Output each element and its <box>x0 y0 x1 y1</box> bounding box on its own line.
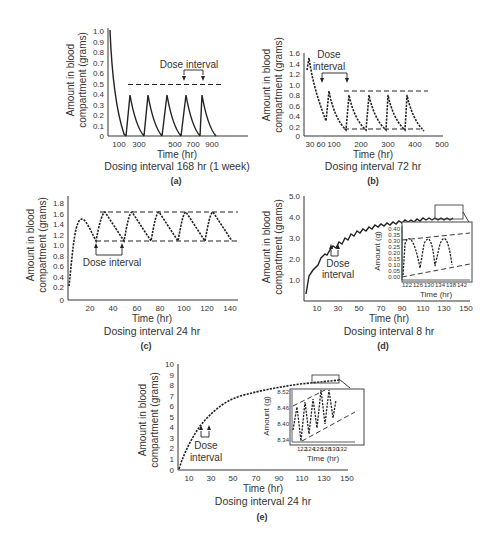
svg-text:0: 0 <box>60 296 65 305</box>
d-yticks: 5.0 4.0 3.0 2.0 1.0 <box>289 192 301 285</box>
svg-text:10: 10 <box>185 474 194 483</box>
svg-text:0: 0 <box>170 466 175 475</box>
svg-text:400: 400 <box>408 140 422 149</box>
d-inset-xticks: 122 126 130 134 138 142 <box>402 282 468 288</box>
svg-text:5.0: 5.0 <box>289 192 301 201</box>
b-ylabel-2: compartment (grams) <box>273 37 284 133</box>
b-xticks: 30 60 100 200 300 400 500 <box>306 140 450 149</box>
b-interval: interval <box>313 61 345 72</box>
svg-text:130: 130 <box>424 282 435 288</box>
svg-text:0.1: 0.1 <box>93 122 105 131</box>
svg-text:0.8: 0.8 <box>53 252 65 261</box>
b-dose: Dose <box>317 49 341 60</box>
svg-text:1.8: 1.8 <box>53 199 65 208</box>
c-panel-label: (c) <box>141 341 152 351</box>
c-yticks: 1.8 1.6 1.4 1.2 1.0 0.8 0.6 0.4 0.2 0 <box>53 199 65 305</box>
svg-text:8.34: 8.34 <box>277 437 289 443</box>
d-ylabel-1: Amount in blood <box>261 211 272 283</box>
svg-text:50: 50 <box>355 304 364 313</box>
svg-text:4: 4 <box>170 423 175 432</box>
svg-text:9: 9 <box>170 371 175 380</box>
b-yticks: 1.6 1.4 1.2 1.0 0.8 0.6 0.4 0.2 0 <box>289 49 301 141</box>
b-caption: Dosing interval 72 hr <box>325 160 422 172</box>
d-ylabel-2: compartment (grams) <box>273 199 284 295</box>
svg-text:1.4: 1.4 <box>289 60 301 69</box>
svg-text:150: 150 <box>340 474 354 483</box>
svg-text:0.8: 0.8 <box>289 91 301 100</box>
figure-canvas: Amount in blood compartment (grams) 1.0 … <box>0 0 498 538</box>
svg-text:700: 700 <box>186 140 200 149</box>
b-xlabel: Time (hr) <box>353 149 393 160</box>
c-curve <box>69 212 232 286</box>
panel-b: Amount in blood compartment (grams) 1.6 … <box>261 37 449 186</box>
d-zoom-box <box>435 205 463 219</box>
svg-text:0: 0 <box>296 132 301 141</box>
d-xlabel: Time (hr) <box>369 313 409 324</box>
e-inset-xlabel: Time (hr) <box>307 454 339 463</box>
d-interval: interval <box>322 269 354 280</box>
svg-text:900: 900 <box>205 140 219 149</box>
svg-text:120: 120 <box>200 304 214 313</box>
svg-text:70: 70 <box>252 474 261 483</box>
svg-text:8.52: 8.52 <box>277 389 289 395</box>
svg-text:1.0: 1.0 <box>93 27 105 36</box>
svg-text:50: 50 <box>229 474 238 483</box>
svg-text:5: 5 <box>170 413 175 422</box>
svg-text:500: 500 <box>168 140 182 149</box>
d-xticks: 10 30 50 70 90 110 130 150 <box>313 304 474 313</box>
svg-text:140: 140 <box>223 304 237 313</box>
svg-text:300: 300 <box>132 140 146 149</box>
svg-text:0.6: 0.6 <box>93 69 105 78</box>
b-bracket <box>322 73 347 78</box>
svg-text:1.2: 1.2 <box>289 70 301 79</box>
a-curve <box>110 30 216 136</box>
e-arrows <box>199 425 211 430</box>
d-dose: Dose <box>326 258 350 269</box>
svg-text:0.4: 0.4 <box>93 90 105 99</box>
svg-text:0.2: 0.2 <box>53 283 65 292</box>
a-ylabel-1: Amount in blood <box>65 44 76 116</box>
d-bracket <box>331 250 338 256</box>
panel-d: Amount in blood compartment (grams) 5.0 … <box>261 192 473 351</box>
svg-text:10: 10 <box>313 304 322 313</box>
e-xlabel: Time (hr) <box>243 483 283 494</box>
svg-text:30: 30 <box>207 474 216 483</box>
svg-text:1.6: 1.6 <box>53 210 65 219</box>
svg-text:110: 110 <box>417 304 430 313</box>
c-ylabel-1: Amount in blood <box>25 209 36 281</box>
svg-text:90: 90 <box>275 474 284 483</box>
d-inset-ylabel: Amount (g) <box>373 231 382 271</box>
svg-text:0.6: 0.6 <box>53 262 65 271</box>
a-ylabel-2: compartment (grams) <box>77 32 88 128</box>
svg-text:0.8: 0.8 <box>93 48 105 57</box>
c-ylabel-2: compartment (grams) <box>37 197 48 293</box>
a-axes <box>108 28 248 136</box>
svg-text:4.0: 4.0 <box>289 213 301 222</box>
c-xlabel: Time (hr) <box>132 313 172 324</box>
a-caption: Dosing interval 168 hr (1 week) <box>104 160 249 172</box>
svg-text:0.2: 0.2 <box>93 111 105 120</box>
svg-text:8.46: 8.46 <box>277 405 289 411</box>
svg-text:30: 30 <box>306 140 315 149</box>
svg-text:60: 60 <box>317 140 326 149</box>
e-inset-yticks: 8.52 8.46 8.40 8.34 <box>277 389 289 443</box>
svg-text:1.0: 1.0 <box>289 276 301 285</box>
a-xlabel: Time (hr) <box>157 149 197 160</box>
svg-text:8: 8 <box>170 381 175 390</box>
svg-text:100: 100 <box>327 140 341 149</box>
e-dose: Dose <box>194 440 218 451</box>
svg-text:30: 30 <box>334 304 343 313</box>
svg-text:3.0: 3.0 <box>289 234 301 243</box>
svg-text:130: 130 <box>317 474 331 483</box>
svg-text:130: 130 <box>437 304 451 313</box>
c-arrows <box>94 243 124 248</box>
svg-text:110: 110 <box>296 474 309 483</box>
svg-text:0.3: 0.3 <box>93 101 105 110</box>
c-dose-interval: Dose interval <box>83 257 141 268</box>
e-ylabel-2: compartment (grams) <box>149 372 160 468</box>
a-bracket <box>184 70 203 75</box>
c-bracket <box>96 248 122 255</box>
svg-text:1: 1 <box>170 455 175 464</box>
svg-text:122: 122 <box>402 282 413 288</box>
e-panel-label: (e) <box>257 512 268 522</box>
